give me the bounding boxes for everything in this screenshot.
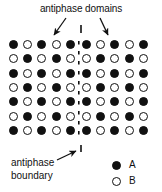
lattice-site-a <box>139 97 148 106</box>
lattice-site-a <box>82 97 91 106</box>
lattice-row <box>9 97 155 107</box>
lattice-site-a <box>9 97 18 106</box>
lattice-site-b <box>125 40 134 49</box>
lattice-site-a <box>66 40 75 49</box>
lattice-site-a <box>52 54 61 63</box>
caption-line-2: boundary <box>11 170 54 183</box>
lattice-site-b <box>66 83 75 92</box>
lattice-site-b <box>66 112 75 121</box>
lattice-site-a <box>9 40 18 49</box>
lattice-site-a <box>125 54 134 63</box>
lattice-site-b <box>9 54 18 63</box>
legend-item-a: A <box>112 157 136 173</box>
antiphase-boundary-caption: antiphase boundary <box>11 157 54 182</box>
lattice-site-a <box>125 83 134 92</box>
crystal-lattice <box>9 40 155 142</box>
lattice-site-a <box>110 40 119 49</box>
lattice-site-a <box>66 69 75 78</box>
lattice-site-b <box>9 83 18 92</box>
lattice-site-b <box>23 126 32 135</box>
lattice-site-b <box>139 112 148 121</box>
lattice-site-b <box>139 83 148 92</box>
lattice-site-a <box>23 112 32 121</box>
lattice-site-a <box>96 112 105 121</box>
lattice-site-a <box>139 40 148 49</box>
lattice-site-a <box>139 126 148 135</box>
lattice-site-b <box>110 112 119 121</box>
lattice-site-b <box>37 54 46 63</box>
lattice-site-b <box>23 97 32 106</box>
lattice-site-b <box>23 40 32 49</box>
lattice-site-a <box>82 40 91 49</box>
legend-label-b: B <box>129 176 136 186</box>
lattice-site-a <box>37 69 46 78</box>
lattice-site-b <box>82 112 91 121</box>
lattice-site-b <box>96 40 105 49</box>
lattice-site-b <box>96 69 105 78</box>
lattice-site-a <box>9 126 18 135</box>
lattice-site-b <box>110 83 119 92</box>
lattice-site-b <box>125 126 134 135</box>
lattice-row <box>9 54 155 64</box>
lattice-site-b <box>66 54 75 63</box>
lattice-site-b <box>23 69 32 78</box>
lattice-site-a <box>139 69 148 78</box>
lattice-site-a <box>52 83 61 92</box>
lattice-row <box>9 126 155 136</box>
lattice-site-a <box>23 83 32 92</box>
lattice-site-a <box>37 40 46 49</box>
boundary-arrow <box>57 151 76 160</box>
lattice-site-a <box>110 69 119 78</box>
legend-label-a: A <box>129 160 136 170</box>
right-domain-arrow <box>100 18 108 35</box>
open-circle-icon <box>112 177 121 186</box>
lattice-site-b <box>52 126 61 135</box>
lattice-site-b <box>125 69 134 78</box>
lattice-site-b <box>52 97 61 106</box>
lattice-site-a <box>37 97 46 106</box>
legend: A B <box>112 157 136 189</box>
lattice-site-b <box>9 112 18 121</box>
antiphase-domain-figure: antiphase domains <box>0 0 162 192</box>
lattice-site-a <box>66 97 75 106</box>
lattice-site-b <box>82 83 91 92</box>
lattice-site-a <box>52 112 61 121</box>
lattice-row <box>9 112 155 122</box>
lattice-site-a <box>110 97 119 106</box>
lattice-site-b <box>82 54 91 63</box>
lattice-site-a <box>96 54 105 63</box>
lattice-site-b <box>96 126 105 135</box>
lattice-site-a <box>66 126 75 135</box>
lattice-site-b <box>37 83 46 92</box>
caption-line-1: antiphase <box>11 157 54 170</box>
lattice-site-b <box>125 97 134 106</box>
lattice-site-a <box>125 112 134 121</box>
lattice-row <box>9 83 155 93</box>
lattice-site-b <box>52 69 61 78</box>
lattice-site-b <box>139 54 148 63</box>
lattice-site-a <box>82 126 91 135</box>
lattice-row <box>9 69 155 79</box>
lattice-site-a <box>9 69 18 78</box>
lattice-site-b <box>96 97 105 106</box>
left-domain-arrow <box>54 18 66 35</box>
lattice-site-b <box>52 40 61 49</box>
lattice-site-a <box>82 69 91 78</box>
lattice-row <box>9 40 155 50</box>
lattice-site-a <box>37 126 46 135</box>
lattice-site-a <box>96 83 105 92</box>
lattice-site-a <box>110 126 119 135</box>
lattice-site-b <box>37 112 46 121</box>
filled-circle-icon <box>112 161 121 170</box>
lattice-site-a <box>23 54 32 63</box>
figure-title: antiphase domains <box>0 3 162 15</box>
legend-item-b: B <box>112 173 136 189</box>
lattice-site-b <box>110 54 119 63</box>
